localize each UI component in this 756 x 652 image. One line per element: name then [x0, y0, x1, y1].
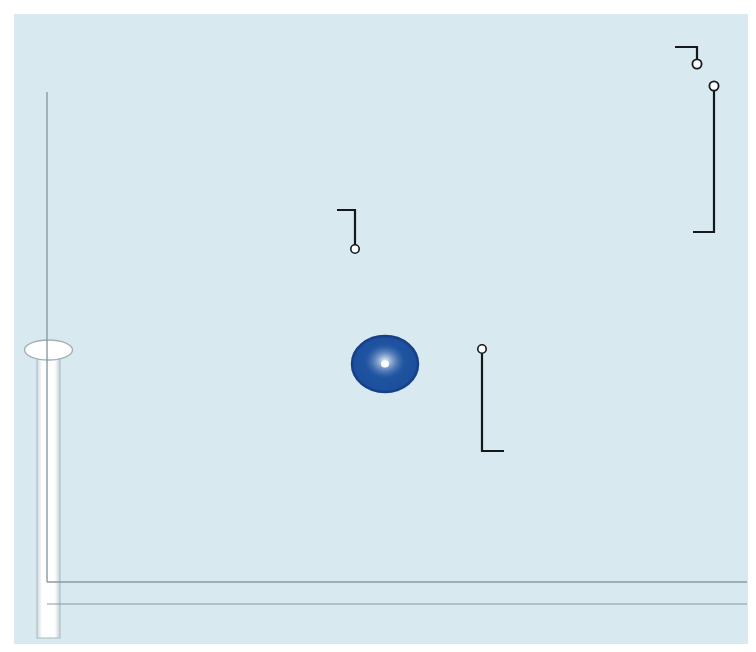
flagpole	[25, 340, 73, 638]
chart-card	[14, 14, 748, 644]
end-value-brackets	[675, 47, 719, 232]
chart-plot-svg	[14, 14, 748, 644]
ashoka-chakra-icon	[352, 336, 418, 392]
agriculture-leader-line	[337, 210, 359, 253]
page-margin-right	[748, 0, 756, 652]
page-margin-top	[0, 0, 756, 14]
page-margin-bottom	[0, 644, 756, 652]
chart-figure	[0, 0, 756, 652]
page-margin-left	[0, 0, 14, 652]
manufacturing-leader-line	[478, 345, 504, 451]
